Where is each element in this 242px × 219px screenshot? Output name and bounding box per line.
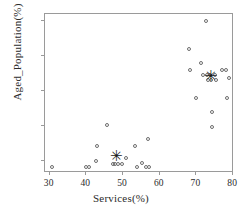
data-point-marker <box>133 144 137 148</box>
data-point-marker <box>50 165 54 169</box>
data-point-marker <box>210 110 214 114</box>
x-tick-mark <box>195 171 196 175</box>
x-tick-label: 30 <box>44 178 54 188</box>
data-point-marker <box>105 123 109 127</box>
x-tick-mark <box>49 171 50 175</box>
x-tick-label: 60 <box>154 178 164 188</box>
y-tick-mark <box>41 20 45 21</box>
data-point-marker <box>194 96 198 100</box>
x-tick-label: 80 <box>227 178 237 188</box>
data-point-marker <box>204 19 208 23</box>
y-axis-title: Aged_Population(%) <box>11 0 23 132</box>
data-point-marker <box>227 76 231 80</box>
data-point-marker <box>135 165 139 169</box>
data-point-marker <box>124 156 128 160</box>
x-tick-label: 70 <box>191 178 201 188</box>
data-point-marker <box>224 68 228 72</box>
data-point-marker <box>146 137 150 141</box>
x-tick-label: 50 <box>117 178 127 188</box>
x-axis-title: Services(%) <box>0 192 242 204</box>
data-point-marker <box>199 61 203 65</box>
plot-area: 510152025 304050607080 ✳✳ <box>44 13 233 172</box>
y-tick-mark <box>41 160 45 161</box>
data-point-marker <box>94 159 98 163</box>
y-tick-mark <box>41 55 45 56</box>
x-tick-mark <box>159 171 160 175</box>
data-point-marker <box>95 144 99 148</box>
y-tick-mark <box>41 125 45 126</box>
data-point-marker <box>147 165 151 169</box>
scatter-plot-figure: Aged_Population(%) 510152025 30405060708… <box>0 0 242 219</box>
x-tick-mark <box>85 171 86 175</box>
data-point-marker <box>225 96 229 100</box>
data-point-marker <box>187 47 191 51</box>
cluster-center-star-marker: ✳ <box>203 69 218 84</box>
data-point-marker <box>140 161 144 165</box>
y-tick-mark <box>41 90 45 91</box>
data-point-marker <box>87 165 91 169</box>
data-point-marker <box>210 125 214 129</box>
cluster-center-star-marker: ✳ <box>109 149 124 164</box>
x-tick-mark <box>122 171 123 175</box>
x-tick-mark <box>232 171 233 175</box>
data-point-marker <box>188 68 192 72</box>
x-tick-label: 40 <box>81 178 91 188</box>
